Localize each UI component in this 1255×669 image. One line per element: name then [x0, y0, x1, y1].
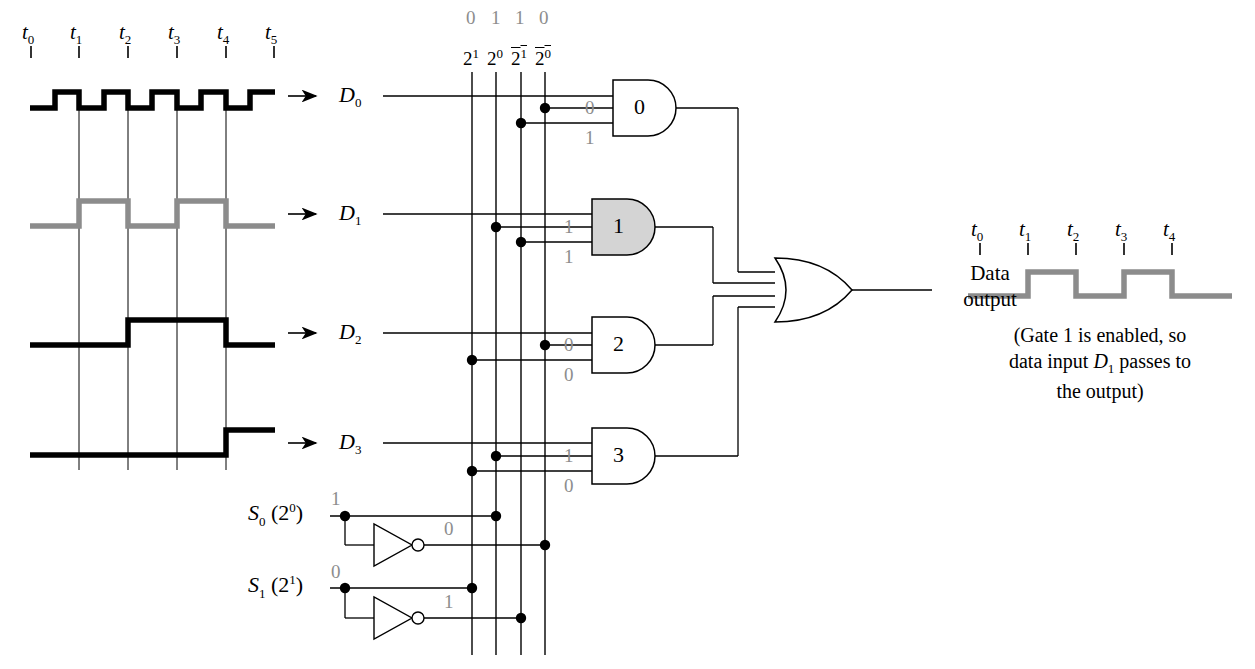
waveform-d1 — [30, 201, 275, 226]
waveform-d3 — [30, 430, 275, 455]
gate-3-input-bottom-value: 0 — [564, 475, 574, 497]
junction-dot — [516, 613, 526, 623]
bus-value-2pow0: 1 — [491, 7, 501, 29]
data-output-line-1: Data — [940, 260, 1040, 286]
junction-dot — [467, 466, 477, 476]
select-input-label-s0: S0 (20) — [248, 500, 303, 530]
output-time-label-t4: t4 — [1163, 217, 1175, 245]
inverter-bubble-s0 — [412, 539, 424, 551]
data-input-label-d3: D3 — [339, 429, 361, 458]
time-label-t2: t2 — [119, 20, 131, 48]
output-time-label-t0: t0 — [971, 217, 983, 245]
waveform-d0 — [30, 92, 275, 108]
bus-header-2pow1: 21 — [463, 46, 479, 70]
junction-dot — [540, 103, 550, 113]
output-time-label-t2: t2 — [1067, 217, 1079, 245]
or-gate-group — [775, 258, 932, 322]
data-output-line-2: output — [940, 286, 1040, 312]
gate-3-input-top-value: 1 — [564, 445, 574, 467]
gate-1-input-top-value: 1 — [564, 216, 574, 238]
and-gate-1-group — [491, 199, 775, 283]
caption-line-2: data input D1 passes to — [960, 348, 1240, 377]
select-input-section — [330, 511, 550, 639]
bus-header-not2pow1: 21 — [511, 46, 527, 70]
time-label-t1: t1 — [70, 20, 82, 48]
or-gate — [775, 258, 852, 322]
and-gate-3-label: 3 — [613, 442, 624, 468]
and-gate-2-label: 2 — [613, 331, 624, 357]
input-waveform-panel — [30, 46, 316, 470]
time-grid-lines — [79, 108, 226, 470]
time-label-t0: t0 — [22, 20, 34, 48]
inverter-bubble-s1 — [412, 612, 424, 624]
caption-line-1: (Gate 1 is enabled, so — [960, 322, 1240, 348]
data-input-lines — [383, 96, 613, 443]
output-time-label-t3: t3 — [1115, 217, 1127, 245]
caption-line-3: the output) — [960, 378, 1240, 404]
gate-0-input-bottom-value: 1 — [585, 127, 595, 149]
gate-2-input-bottom-value: 0 — [564, 364, 574, 386]
time-label-t5: t5 — [265, 20, 277, 48]
time-label-t4: t4 — [217, 20, 229, 48]
junction-dot — [467, 583, 477, 593]
select-bus-lines — [472, 72, 545, 655]
gate-0-input-top-value: 0 — [585, 97, 595, 119]
data-input-label-d0: D0 — [339, 82, 361, 111]
select-s0-inverted-value: 0 — [444, 518, 454, 540]
bus-header-not2pow0: 20 — [535, 46, 551, 70]
junction-dot — [516, 118, 526, 128]
select-s1-inverted-value: 1 — [444, 591, 454, 613]
inverter-s0 — [374, 524, 412, 566]
select-s0-value: 1 — [331, 488, 341, 510]
bus-header-2pow0: 20 — [487, 46, 503, 70]
inverter-s1 — [374, 597, 412, 639]
junction-dot — [491, 511, 501, 521]
gate-1-input-bottom-value: 1 — [564, 246, 574, 268]
bus-value-not2pow0: 0 — [539, 7, 549, 29]
select-input-label-s1: S1 (21) — [248, 572, 303, 602]
bus-value-2pow1: 0 — [466, 7, 476, 29]
junction-dot — [540, 540, 550, 550]
data-input-label-d1: D1 — [339, 200, 361, 229]
select-s1-value: 0 — [331, 561, 341, 583]
data-output-label: Data output — [940, 260, 1040, 313]
figure-caption: (Gate 1 is enabled, so data input D1 pas… — [960, 322, 1240, 404]
gate-2-input-top-value: 0 — [564, 334, 574, 356]
output-time-label-t1: t1 — [1019, 217, 1031, 245]
data-input-label-d2: D2 — [339, 319, 361, 348]
junction-dot — [516, 237, 526, 247]
time-tick-marks — [31, 46, 274, 58]
junction-dot — [491, 451, 501, 461]
junction-dot — [467, 355, 477, 365]
bus-value-not2pow1: 1 — [515, 7, 525, 29]
and-gate-1-label: 1 — [613, 213, 624, 239]
waveform-d2 — [30, 320, 275, 345]
junction-dot — [491, 222, 501, 232]
junction-dot — [540, 340, 550, 350]
time-label-t3: t3 — [168, 20, 180, 48]
multiplexer-figure: t0 t1 t2 t3 t4 t5 t0 t1 t2 t3 t4 D0 D1 D… — [0, 0, 1255, 669]
and-gate-0-label: 0 — [634, 94, 645, 120]
